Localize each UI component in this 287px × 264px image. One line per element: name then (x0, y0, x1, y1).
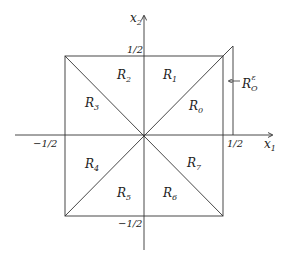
tick-right: 1/2 (227, 138, 243, 149)
x-axis-label: x1 (264, 137, 276, 153)
tick-bottom: −1/2 (118, 218, 142, 229)
region-r5: R5 (116, 186, 131, 202)
y-axis-label: x2 (130, 11, 142, 27)
region-r1: R1 (162, 68, 177, 84)
region-r3: R3 (84, 96, 99, 112)
extended-diagonal (223, 46, 233, 56)
region-r7: R7 (186, 156, 202, 172)
annotation-label: ROε (241, 73, 258, 93)
tick-left: −1/2 (33, 138, 57, 149)
tick-top: 1/2 (127, 44, 143, 55)
region-r2: R2 (116, 68, 131, 84)
region-r4: R4 (84, 157, 99, 173)
region-diagram: ROε x2 x1 1/2 −1/2 −1/2 1/2 R0 R1 R2 R3 … (0, 0, 287, 264)
region-r0: R0 (188, 99, 203, 115)
region-r6: R6 (162, 186, 177, 202)
